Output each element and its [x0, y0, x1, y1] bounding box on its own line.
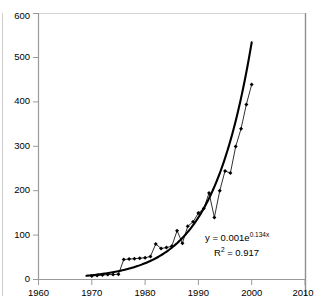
y-tick-label-500: 500 — [14, 51, 30, 62]
y-tick-label-200: 200 — [14, 184, 30, 195]
y-tick-label-400: 400 — [14, 95, 30, 106]
x-tick-label-2000: 2000 — [241, 287, 262, 298]
r-squared-value: = 0.917 — [225, 247, 260, 258]
y-tick-label-600: 600 — [14, 10, 30, 21]
y-tick-label-0: 0 — [25, 273, 30, 284]
x-tick-label-2010: 2010 — [292, 287, 313, 298]
y-tick-label-100: 100 — [14, 229, 30, 240]
x-tick-label-1990: 1990 — [188, 287, 209, 298]
chart-container: 0 100 200 300 400 500 600 1960 1970 1980… — [0, 0, 324, 307]
chart-background — [0, 0, 324, 307]
y-tick-label-300: 300 — [14, 140, 30, 151]
x-tick-label-1980: 1980 — [135, 287, 156, 298]
equation-exponent: 0.134x — [250, 231, 270, 238]
r-squared-annotation: R2 = 0.917 — [214, 246, 259, 258]
chart-plot: 0 100 200 300 400 500 600 1960 1970 1980… — [0, 0, 324, 307]
equation-base: y = 0.001e — [205, 232, 250, 243]
x-tick-label-1960: 1960 — [28, 287, 49, 298]
x-tick-label-1970: 1970 — [81, 287, 102, 298]
